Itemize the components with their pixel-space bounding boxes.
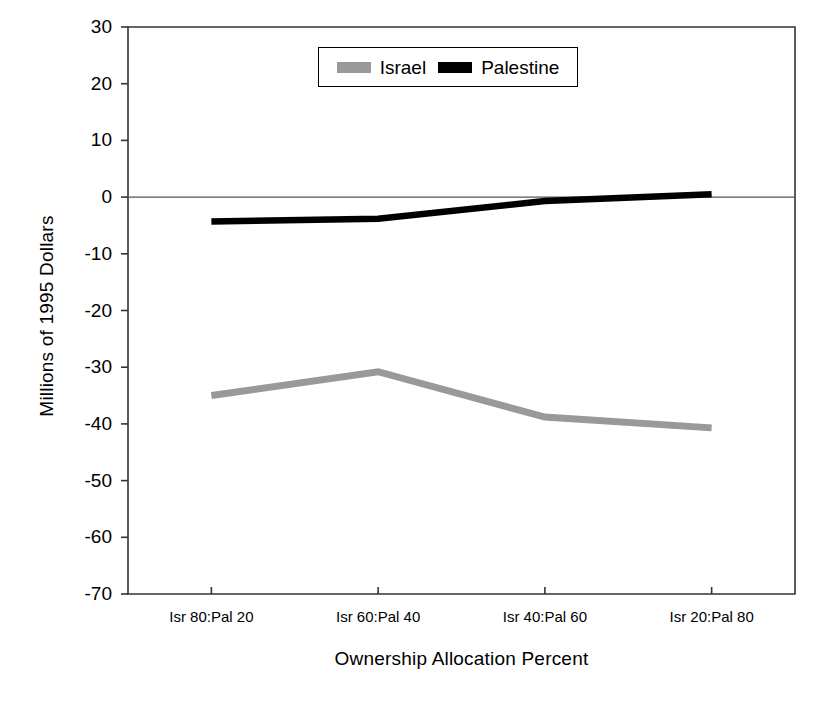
legend-entry-israel: Israel [337,58,426,77]
legend-label-palestine: Palestine [481,58,559,77]
plot-area [0,0,823,701]
legend-swatch-israel [337,62,371,73]
chart-figure: Millions of 1995 Dollars 3020100-10-20-3… [0,0,823,701]
legend-swatch-palestine [438,62,472,73]
plot-frame [128,27,795,594]
legend-label-israel: Israel [380,58,426,77]
chart-legend: Israel Palestine [318,47,578,87]
axis-ticks [121,27,712,594]
series-line-israel [211,372,711,428]
axes-frame [128,27,795,594]
data-series [211,194,711,428]
legend-entry-palestine: Palestine [438,58,559,77]
series-line-palestine [211,194,711,221]
